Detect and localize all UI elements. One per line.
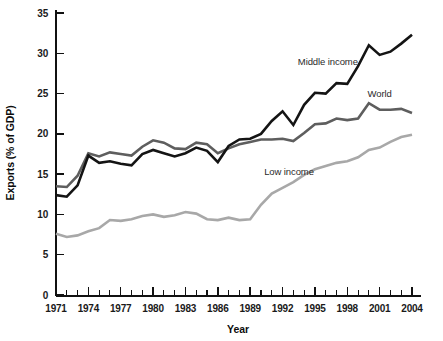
y-tick-label-20: 20 <box>37 128 48 139</box>
series-label-middle-income: Middle income <box>298 56 358 67</box>
y-axis-group: 05101520253035 Exports (% of GDP) <box>4 8 64 301</box>
x-tick-marks <box>56 287 412 296</box>
series-line-low-income <box>56 135 412 237</box>
x-tick-label-1971: 1971 <box>45 303 67 314</box>
x-tick-label-1992: 1992 <box>272 303 294 314</box>
x-tick-label-2001: 2001 <box>369 303 391 314</box>
y-tick-labels: 05101520253035 <box>37 8 48 301</box>
x-tick-label-1995: 1995 <box>304 303 326 314</box>
series-annotation-group: Middle incomeWorldLow income <box>264 56 392 177</box>
x-tick-label-1974: 1974 <box>78 303 100 314</box>
x-tick-label-2004: 2004 <box>401 303 423 314</box>
series-label-low-income: Low income <box>264 166 314 177</box>
x-tick-label-1998: 1998 <box>337 303 359 314</box>
chart-canvas: 05101520253035 Exports (% of GDP) 197119… <box>0 0 443 341</box>
x-tick-label-1977: 1977 <box>110 303 132 314</box>
y-tick-marks <box>56 13 64 295</box>
x-axis-title: Year <box>227 323 249 335</box>
data-series-group <box>56 35 412 237</box>
series-label-world: World <box>368 88 392 99</box>
exports-share-of-gdp-line-chart: 05101520253035 Exports (% of GDP) 197119… <box>0 0 443 341</box>
x-tick-label-1989: 1989 <box>239 303 261 314</box>
y-tick-label-25: 25 <box>37 88 48 99</box>
y-tick-label-15: 15 <box>37 169 48 180</box>
y-tick-label-30: 30 <box>37 48 48 59</box>
y-tick-label-10: 10 <box>37 209 48 220</box>
y-tick-label-5: 5 <box>43 249 49 260</box>
series-line-world <box>56 103 412 187</box>
x-tick-labels: 1971197419771980198319861989199219951998… <box>45 303 423 314</box>
x-tick-label-1986: 1986 <box>207 303 229 314</box>
y-axis-title: Exports (% of GDP) <box>4 105 16 200</box>
x-tick-label-1980: 1980 <box>142 303 164 314</box>
y-tick-label-0: 0 <box>43 290 49 301</box>
y-tick-label-35: 35 <box>37 8 48 19</box>
x-tick-label-1983: 1983 <box>175 303 197 314</box>
x-axis-group: 1971197419771980198319861989199219951998… <box>45 287 423 335</box>
